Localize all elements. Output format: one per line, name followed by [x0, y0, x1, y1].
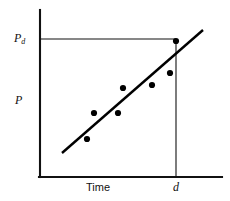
data-point-group — [84, 38, 179, 142]
trend-line-group — [62, 30, 203, 153]
y-axis-marker-label-subscript: d — [21, 37, 25, 46]
reference-guides — [40, 39, 176, 177]
y-axis-title: P — [15, 94, 22, 106]
data-point — [173, 38, 179, 44]
data-point — [149, 82, 155, 88]
data-point — [91, 110, 97, 116]
scatter-plot-figure: Pd P Time d — [0, 0, 230, 201]
x-axis-marker-label-d: d — [173, 181, 179, 193]
y-axis-marker-label-pd: Pd — [14, 32, 25, 46]
data-point — [167, 70, 173, 76]
data-point — [84, 136, 90, 142]
data-point — [120, 85, 126, 91]
plot-canvas — [0, 0, 230, 201]
x-axis-title: Time — [86, 182, 110, 193]
data-point — [115, 110, 121, 116]
fitted-trend-line — [62, 30, 203, 153]
